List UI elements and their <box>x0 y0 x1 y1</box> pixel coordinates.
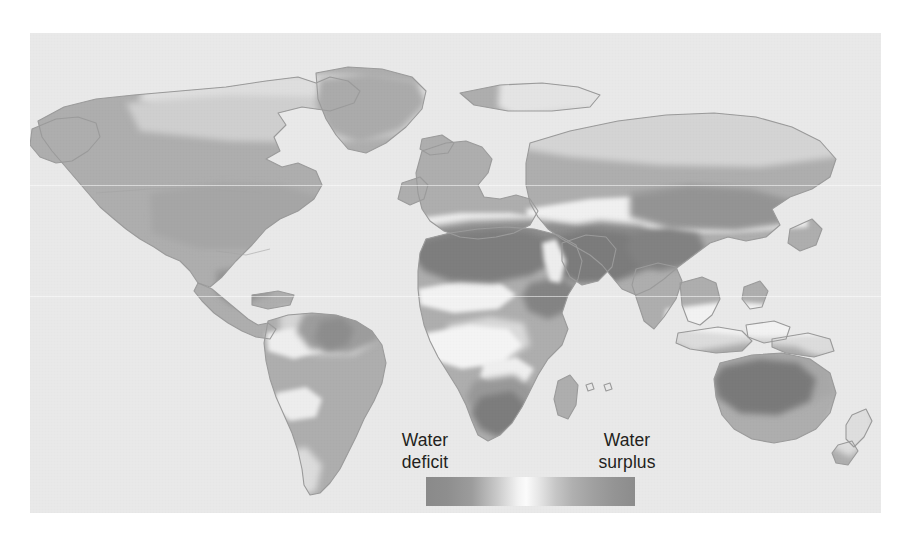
legend-surplus-line1: Water <box>572 429 682 451</box>
map-panel: Water deficit Water surplus <box>30 33 881 513</box>
map-legend: Water deficit Water surplus <box>370 429 690 513</box>
legend-deficit-line1: Water <box>370 429 480 451</box>
legend-label-water-deficit: Water deficit <box>370 429 480 473</box>
legend-gradient-bar <box>426 477 635 506</box>
legend-deficit-line2: deficit <box>370 451 480 473</box>
legend-surplus-line2: surplus <box>572 451 682 473</box>
legend-label-water-surplus: Water surplus <box>572 429 682 473</box>
legend-label-row: Water deficit Water surplus <box>370 429 690 477</box>
figure-root: Water deficit Water surplus <box>0 0 912 542</box>
